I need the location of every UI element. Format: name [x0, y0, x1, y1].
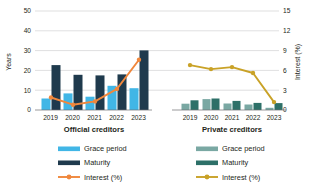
left-y-tick-30: 30: [24, 47, 32, 54]
bar-maturity-2022-official: [118, 74, 127, 110]
bar-maturity-2023-private: [275, 103, 283, 110]
right-panel-plot: 2019 2020 2021 2022 2023 Private credito…: [172, 63, 286, 134]
dual-panel-bar-line-chart: 50 40 30 20 10 0 Years 15 12 9 6 3 0 Int…: [0, 0, 309, 192]
legend-swatch-grace-official: [58, 147, 80, 152]
legend-label-maturity-private: Maturity: [222, 158, 249, 167]
right-x-tick-2020: 2020: [204, 114, 219, 121]
left-x-tick-2023: 2023: [131, 114, 146, 121]
legend-label-grace-official: Grace period: [84, 144, 127, 153]
left-y-tick-10: 10: [24, 87, 32, 94]
right-y-tick-12: 12: [283, 27, 291, 34]
left-panel-title: Official creditors: [64, 125, 124, 134]
gridlines: [35, 11, 279, 90]
left-y-axis-title: Years: [5, 53, 12, 71]
right-x-tick-2021: 2021: [225, 114, 240, 121]
legend-swatch-maturity-official: [58, 161, 80, 166]
left-x-tick-2021: 2021: [87, 114, 102, 121]
point-interest-2023-official: [137, 58, 141, 62]
right-y-axis-title: Interest (%): [294, 44, 302, 80]
point-interest-2019-private: [188, 63, 192, 67]
legend-marker-interest-private: [205, 175, 210, 180]
right-y-tick-3: 3: [283, 87, 287, 94]
bar-grace-2019-private: [182, 104, 190, 110]
bar-grace-2020-private: [203, 99, 211, 110]
left-y-axis: 50 40 30 20 10 0 Years: [5, 7, 31, 113]
left-x-tick-2022: 2022: [109, 114, 124, 121]
bar-maturity-2020-private: [212, 99, 220, 111]
right-y-tick-6: 6: [283, 67, 287, 74]
legend-marker-interest-official: [67, 175, 72, 180]
left-panel-plot: 2019 2020 2021 2022 2023 Official credit…: [35, 50, 152, 134]
point-interest-2020-official: [71, 103, 75, 107]
left-panel-legend: Grace period Maturity Interest (%): [58, 144, 127, 181]
point-interest-2022-official: [115, 87, 119, 91]
point-interest-2022-private: [251, 71, 255, 75]
legend-swatch-maturity-private: [196, 161, 218, 166]
chart-figure: 50 40 30 20 10 0 Years 15 12 9 6 3 0 Int…: [0, 0, 309, 192]
left-y-tick-20: 20: [24, 67, 32, 74]
legend-label-maturity-official: Maturity: [84, 158, 111, 167]
left-x-tick-2020: 2020: [65, 114, 80, 121]
bar-grace-2019-official: [42, 99, 51, 111]
left-x-tick-2019: 2019: [43, 114, 58, 121]
left-y-tick-40: 40: [24, 27, 32, 34]
right-panel-title: Private creditors: [202, 125, 262, 134]
left-y-tick-0: 0: [27, 106, 31, 113]
bar-maturity-2021-official: [96, 75, 105, 110]
point-interest-2023-private: [272, 100, 276, 104]
point-interest-2020-private: [209, 67, 213, 71]
legend-label-interest-official: Interest (%): [84, 173, 122, 182]
point-interest-2021-official: [93, 99, 97, 103]
bar-maturity-2019-private: [191, 100, 199, 110]
legend-label-interest-private: Interest (%): [222, 173, 260, 182]
bar-maturity-2019-official: [52, 65, 61, 110]
bar-grace-2021-private: [224, 104, 232, 111]
right-y-axis: 15 12 9 6 3 0 Interest (%): [283, 7, 302, 113]
bar-grace-2023-official: [130, 88, 139, 110]
point-interest-2021-private: [230, 65, 234, 69]
right-x-tick-2023: 2023: [267, 114, 282, 121]
bar-grace-2022-private: [245, 105, 253, 111]
right-x-tick-2019: 2019: [183, 114, 198, 121]
left-y-tick-50: 50: [24, 7, 32, 14]
right-y-tick-9: 9: [283, 47, 287, 54]
legend-swatch-grace-private: [196, 147, 218, 152]
legend-label-grace-private: Grace period: [222, 144, 265, 153]
bar-maturity-2021-private: [233, 101, 241, 110]
right-y-tick-15: 15: [283, 7, 291, 14]
bar-maturity-2022-private: [254, 103, 262, 110]
right-panel-legend: Grace period Maturity Interest (%): [196, 144, 265, 181]
point-interest-2019-official: [49, 95, 53, 99]
right-x-tick-2022: 2022: [246, 114, 261, 121]
